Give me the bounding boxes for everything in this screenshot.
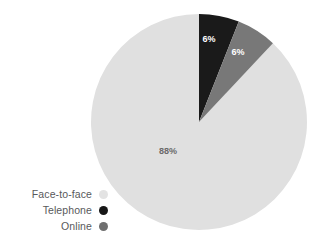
legend-label-face-to-face: Face-to-face xyxy=(32,188,92,200)
slice-label-online: 6% xyxy=(231,47,244,57)
legend-swatch-face-to-face xyxy=(99,190,108,199)
legend-item-online[interactable]: Online xyxy=(4,218,108,234)
pie-chart: 6% 6% 88% Face-to-face Telephone Online xyxy=(0,0,310,248)
legend-item-telephone[interactable]: Telephone xyxy=(4,202,108,218)
slice-label-face-to-face: 88% xyxy=(159,146,177,156)
legend-label-online: Online xyxy=(61,220,92,232)
legend-item-face-to-face[interactable]: Face-to-face xyxy=(4,186,108,202)
legend-swatch-online xyxy=(99,222,108,231)
legend-swatch-telephone xyxy=(99,206,108,215)
slice-label-telephone: 6% xyxy=(202,34,215,44)
chart-legend: Face-to-face Telephone Online xyxy=(4,186,108,234)
legend-label-telephone: Telephone xyxy=(43,204,92,216)
